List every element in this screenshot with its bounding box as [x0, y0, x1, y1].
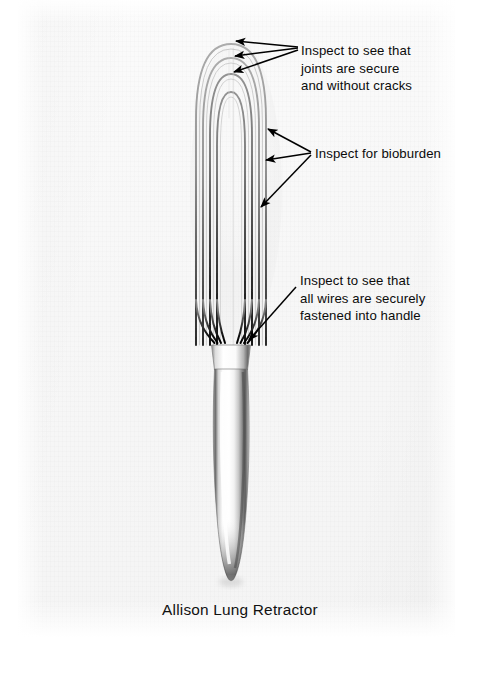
figure-caption: Allison Lung Retractor [0, 601, 480, 619]
arrow-group-bioburden [261, 129, 311, 207]
annotation-arrows [0, 0, 480, 676]
annotation-label-joints: Inspect to see that joints are secure an… [301, 42, 412, 95]
arrow-group-joints [234, 41, 298, 72]
figure-root: Inspect to see that joints are secure an… [0, 0, 480, 676]
arrow-group-handle [249, 287, 296, 340]
annotation-label-handle: Inspect to see that all wires are secure… [300, 272, 425, 325]
annotation-label-bioburden: Inspect for bioburden [315, 145, 441, 163]
